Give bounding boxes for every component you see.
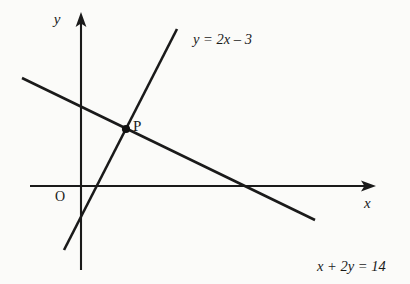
- intersection-point-dot: [122, 125, 130, 133]
- coordinate-diagram: y x O P y = 2x – 3 x + 2y = 14: [0, 0, 410, 284]
- x-axis-label: x: [363, 195, 371, 211]
- y-axis-label: y: [52, 11, 61, 27]
- shallow-line-equation-label: x + 2y = 14: [316, 258, 386, 274]
- origin-label: O: [55, 189, 65, 204]
- line-x-plus-2y-equals-14: [22, 78, 315, 220]
- steep-line-equation-label: y = 2x – 3: [191, 31, 252, 47]
- intersection-point-label: P: [133, 118, 141, 134]
